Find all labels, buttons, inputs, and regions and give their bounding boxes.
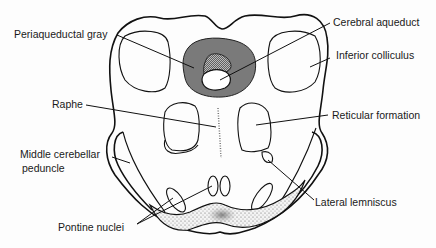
brainstem-cross-section-diagram: Periaqueductal gray Cerebral aqueduct In… <box>0 0 436 248</box>
leader-periaqueductal-gray <box>117 35 194 68</box>
label-periaqueductal-gray: Periaqueductal gray <box>14 28 107 41</box>
inferior-colliculus-right <box>268 31 320 92</box>
label-raphe: Raphe <box>52 98 83 111</box>
pontine-nucleus-center-left <box>208 176 218 196</box>
label-cerebral-aqueduct: Cerebral aqueduct <box>333 16 419 29</box>
lateral-lemniscus-region <box>262 152 273 163</box>
inferior-colliculus-left <box>119 31 170 92</box>
label-reticular-formation: Reticular formation <box>332 109 420 122</box>
middle-cerebellar-peduncle-left <box>114 132 152 210</box>
leader-reticular-formation <box>256 115 328 125</box>
label-middle-cerebellar-peduncle-line1: Middle cerebellar <box>20 148 100 161</box>
label-inferior-colliculus: Inferior colliculus <box>336 49 414 62</box>
pontine-nucleus-center-right <box>220 176 230 196</box>
label-middle-cerebellar-peduncle-line2: peduncle <box>22 162 65 175</box>
raphe <box>218 108 221 158</box>
label-lateral-lemniscus: Lateral lemniscus <box>315 196 397 209</box>
leader-middle-cerebellar-peduncle <box>112 157 130 163</box>
reticular-formation-left <box>164 103 200 151</box>
reticular-formation-right <box>238 103 271 152</box>
cerebral-aqueduct-lumen <box>202 70 230 90</box>
label-pontine-nuclei: Pontine nuclei <box>58 221 124 234</box>
